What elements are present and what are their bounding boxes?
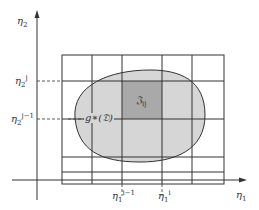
diagram-canvas: η2 η1 η2j η2j−1 η1i−1 η1i g∗(𝔇) 𝔍ij xyxy=(0,0,259,210)
y-axis-label: η2 xyxy=(17,16,27,29)
grid-diagram xyxy=(0,0,259,210)
region-label: g∗(𝔇) xyxy=(84,113,114,123)
tick-label-eta2-j-minus-1: η2j−1 xyxy=(11,113,34,127)
y-axis-arrow-icon xyxy=(35,10,40,18)
cell-label: 𝔍ij xyxy=(136,95,146,108)
tick-label-eta1-i-minus-1: η1i−1 xyxy=(112,190,135,204)
tick-label-eta1-i: η1i xyxy=(158,190,171,204)
x-axis-arrow-icon xyxy=(239,178,247,183)
x-axis-label: η1 xyxy=(236,190,246,203)
tick-label-eta2-j: η2j xyxy=(15,75,28,89)
